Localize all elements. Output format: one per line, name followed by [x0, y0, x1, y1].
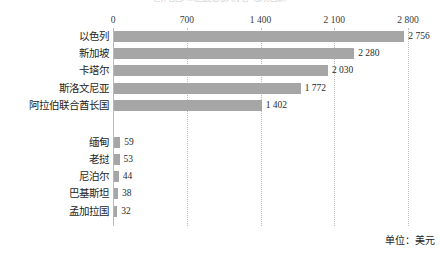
bar: [114, 83, 301, 94]
category-label: 巴基斯坦: [69, 185, 109, 202]
bar: [114, 137, 120, 148]
category-label: 卡塔尔: [79, 62, 109, 79]
bar-row: 新加坡2 280: [113, 45, 408, 62]
x-tick-label: 1 400: [250, 13, 271, 27]
category-label: 缅甸: [89, 134, 109, 151]
bar: [114, 31, 404, 42]
bar: [114, 100, 262, 111]
bar: [114, 188, 118, 199]
category-label: 以色列: [79, 28, 109, 45]
bar-row: 缅甸59: [113, 134, 408, 151]
value-label: 2 030: [332, 62, 353, 79]
bar-chart: 世界各国人均国民总收入排名（部分国家） 07001 4002 1002 800 …: [0, 0, 445, 253]
category-label: 尼泊尔: [79, 168, 109, 185]
bar-row: 以色列2 756: [113, 28, 408, 45]
x-axis-ticks: 07001 4002 1002 800: [0, 13, 445, 27]
chart-title: 世界各国人均国民总收入排名（部分国家）: [0, 0, 445, 3]
value-label: 1 772: [305, 80, 326, 97]
unit-note: 单位：美元: [385, 232, 435, 247]
value-label: 38: [122, 185, 132, 202]
value-label: 59: [124, 134, 134, 151]
x-tick-label: 700: [180, 13, 194, 27]
bar: [114, 154, 120, 165]
bar: [114, 65, 328, 76]
value-label: 2 756: [408, 28, 429, 45]
bar: [114, 206, 117, 217]
x-tick-label: 0: [111, 13, 116, 27]
bar-row: 巴基斯坦38: [113, 185, 408, 202]
category-label: 阿拉伯联合酋长国: [29, 97, 109, 114]
bar-row: 卡塔尔2 030: [113, 62, 408, 79]
category-label: 斯洛文尼亚: [59, 80, 109, 97]
gridline: [408, 28, 409, 226]
bar-row: 阿拉伯联合酋长国1 402: [113, 97, 408, 114]
bar: [114, 48, 354, 59]
bar: [114, 171, 119, 182]
category-label: 老挝: [89, 151, 109, 168]
value-label: 2 280: [358, 45, 379, 62]
bar-row: 老挝53: [113, 151, 408, 168]
category-label: 新加坡: [79, 45, 109, 62]
plot-area: 以色列2 756新加坡2 280卡塔尔2 030斯洛文尼亚1 772阿拉伯联合酋…: [113, 28, 408, 226]
bar-row: 尼泊尔44: [113, 168, 408, 185]
value-label: 32: [121, 203, 131, 220]
value-label: 53: [124, 151, 134, 168]
x-tick-label: 2 800: [397, 13, 418, 27]
bar-row: 斯洛文尼亚1 772: [113, 80, 408, 97]
x-tick-label: 2 100: [324, 13, 345, 27]
category-label: 孟加拉国: [69, 203, 109, 220]
bar-row: 孟加拉国32: [113, 203, 408, 220]
value-label: 1 402: [266, 97, 287, 114]
value-label: 44: [123, 168, 133, 185]
